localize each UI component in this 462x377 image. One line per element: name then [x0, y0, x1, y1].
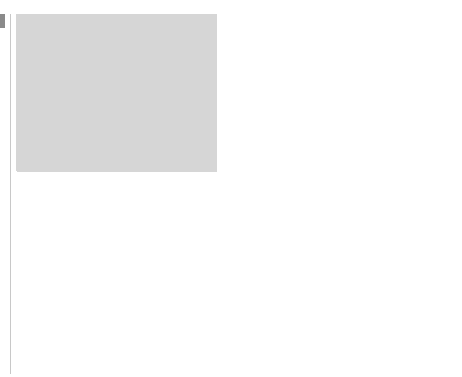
map-layers: [0, 0, 462, 377]
